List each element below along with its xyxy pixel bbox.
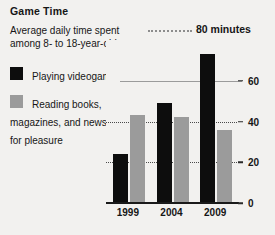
bar-1999-reading	[130, 115, 145, 203]
y-tick-label-40: 40	[248, 116, 259, 127]
page-title: Game Time	[10, 5, 68, 17]
gridline-40	[106, 122, 237, 123]
bar-1999-videogames	[113, 154, 128, 203]
y-axis-ticks: 0204060	[242, 40, 275, 208]
x-axis-label-1999: 1999	[106, 207, 150, 218]
y-tick-mark-40	[238, 121, 243, 123]
gridline-60	[120, 81, 242, 83]
y-tick-label-60: 60	[248, 75, 259, 86]
annotation-80-minutes: 80 minutes	[196, 23, 251, 35]
bar-2009-reading	[217, 130, 232, 203]
annotation-leader-line	[148, 30, 192, 32]
x-axis-label-2004: 2004	[150, 207, 194, 218]
x-axis-label-2009: 2009	[193, 207, 237, 218]
y-tick-label-20: 20	[248, 157, 259, 168]
bar-2004-videogames	[157, 103, 172, 203]
bar-2009-videogames	[200, 54, 215, 203]
plot-area	[106, 40, 237, 203]
legend-swatch-videogames	[10, 67, 23, 80]
y-tick-mark-20	[238, 162, 243, 164]
y-tick-label-0: 0	[248, 198, 254, 209]
x-axis-line	[106, 202, 239, 204]
chart-figure: Game Time Average daily time spent among…	[0, 0, 275, 235]
y-tick-mark-60	[238, 80, 243, 82]
bar-2004-reading	[174, 117, 189, 203]
y-tick-mark-0	[238, 202, 243, 204]
legend-swatch-reading	[10, 95, 23, 108]
